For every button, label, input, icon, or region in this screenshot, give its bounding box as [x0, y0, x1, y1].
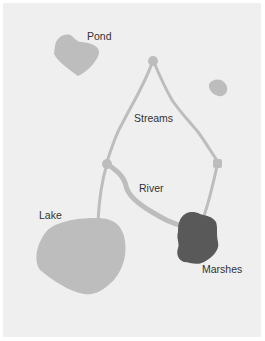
river-label: River	[139, 182, 164, 194]
marshes-label: Marshes	[202, 263, 242, 275]
lake-label: Lake	[39, 209, 62, 221]
pond-label: Pond	[87, 30, 112, 42]
marshes-shape	[177, 212, 218, 264]
streams-label: Streams	[134, 112, 173, 124]
wetland-diagram: Pond Streams River Lake Marshes	[0, 0, 265, 341]
stream-node-top	[148, 56, 158, 66]
diagram-background	[3, 3, 261, 337]
